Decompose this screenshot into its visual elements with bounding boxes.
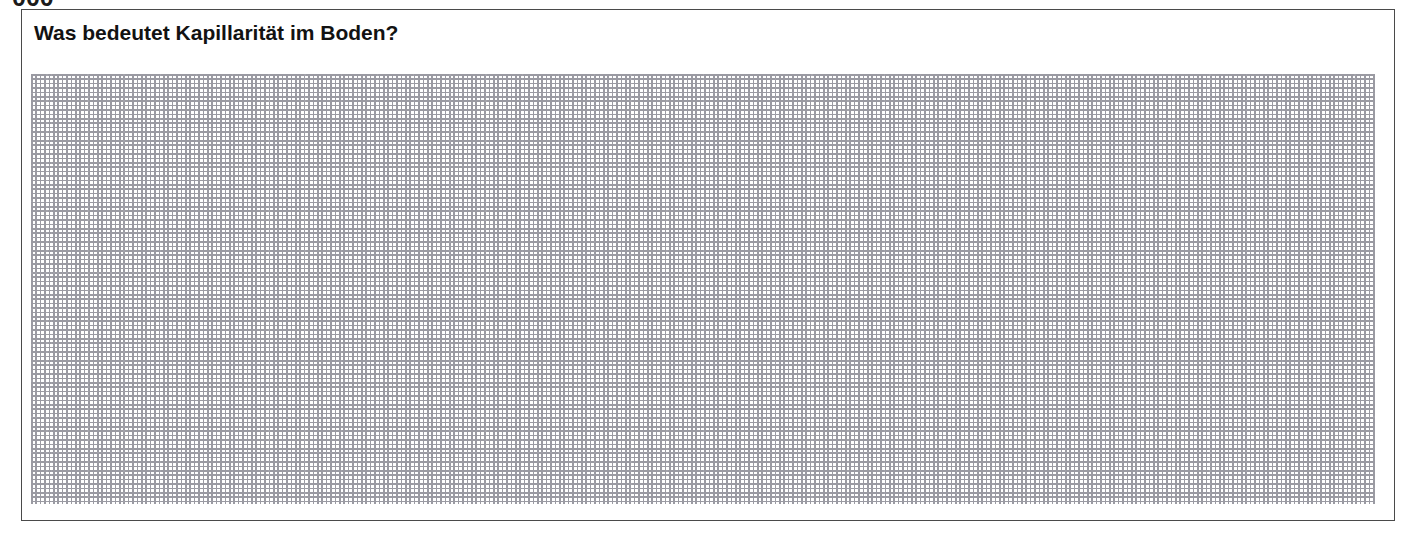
answer-card: Was bedeutet Kapillarität im Boden? <box>21 9 1395 521</box>
grid-writing-area[interactable] <box>31 74 1375 504</box>
question-title: Was bedeutet Kapillarität im Boden? <box>34 20 398 46</box>
